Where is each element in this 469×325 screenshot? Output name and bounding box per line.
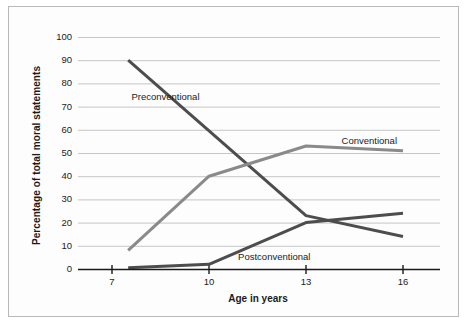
series-label-conventional: Conventional [342,135,397,146]
x-tick-label: 7 [100,276,124,287]
y-tick-label: 40 [46,170,72,181]
y-tick-label: 80 [46,77,72,88]
x-tick-label: 16 [391,276,415,287]
chart-figure: Percentage of total moral statements Age… [0,0,469,325]
series-label-preconventional: Preconventional [131,91,199,102]
y-axis-title: Percentage of total moral statements [31,46,42,266]
y-tick-label: 70 [46,101,72,112]
x-tick-label: 10 [197,276,221,287]
y-tick-label: 90 [46,54,72,65]
x-axis-title: Age in years [112,293,404,304]
y-tick-label: 10 [46,240,72,251]
series-line-conventional [128,146,403,250]
y-tick-label: 30 [46,193,72,204]
y-tick-label: 20 [46,217,72,228]
y-tick-label: 50 [46,147,72,158]
y-tick-label: 100 [46,31,72,42]
series-label-postconventional: Postconventional [238,251,310,262]
y-tick-label: 60 [46,124,72,135]
y-tick-label: 0 [46,263,72,274]
x-tick-label: 13 [294,276,318,287]
